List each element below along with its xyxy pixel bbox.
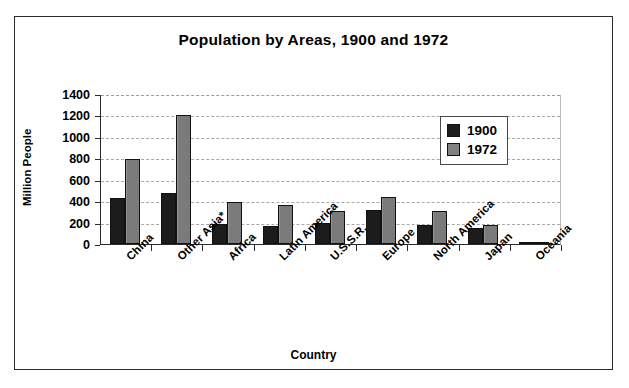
legend-swatch-1900-icon <box>447 124 460 137</box>
chart-frame: Population by Areas, 1900 and 1972 Milli… <box>14 16 613 370</box>
x-axis-tick-mark <box>151 245 152 251</box>
bar-1900-other-asia- <box>161 193 176 244</box>
y-axis-tick-label: 0 <box>44 239 90 252</box>
x-axis-tick-mark <box>356 245 357 251</box>
x-axis-tick-mark <box>305 245 306 251</box>
bar-1900-north-america <box>417 225 432 244</box>
bar-1900-europe <box>366 210 381 244</box>
gridline <box>101 181 560 182</box>
y-axis-tick-label: 800 <box>44 153 90 166</box>
x-axis-title: Country <box>15 348 612 362</box>
gridline <box>101 95 560 96</box>
legend-swatch-1972-icon <box>447 143 460 156</box>
y-axis-tick-label: 600 <box>44 175 90 188</box>
x-axis-tick-mark <box>510 245 511 251</box>
bar-1900-oceania <box>519 242 534 244</box>
legend-item-1972[interactable]: 1972 <box>447 140 497 159</box>
bar-1972-other-asia- <box>176 115 191 244</box>
y-axis-tick-label: 1400 <box>44 89 90 102</box>
bar-1972-china <box>125 159 140 244</box>
x-axis-tick-mark <box>561 245 562 251</box>
x-axis-tick-mark <box>459 245 460 251</box>
x-axis-tick-mark <box>407 245 408 251</box>
legend-label-1972: 1972 <box>467 143 497 157</box>
y-axis-tick-mark <box>95 245 100 246</box>
y-axis-tick-label: 1000 <box>44 132 90 145</box>
legend-item-1900[interactable]: 1900 <box>447 121 497 140</box>
x-axis-tick-mark <box>202 245 203 251</box>
bar-1900-china <box>110 198 125 244</box>
bar-1900-latin-america <box>263 226 278 244</box>
y-axis-title: Million People <box>21 107 39 227</box>
legend-label-1900: 1900 <box>467 124 497 138</box>
bar-1972-africa <box>227 202 242 244</box>
chart-legend: 1900 1972 <box>440 116 508 165</box>
bar-1972-europe <box>381 197 396 244</box>
chart-title: Population by Areas, 1900 and 1972 <box>15 31 612 49</box>
x-axis-tick-mark <box>254 245 255 251</box>
y-axis-tick-label: 400 <box>44 196 90 209</box>
y-axis-tick-label: 200 <box>44 218 90 231</box>
y-axis-tick-label: 1200 <box>44 110 90 123</box>
